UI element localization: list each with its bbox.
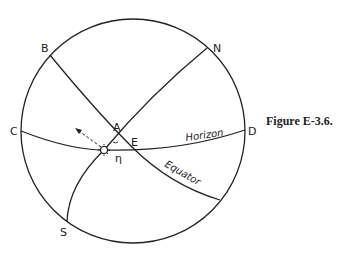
label-b: B (41, 42, 49, 55)
arrow-head-icon (75, 128, 82, 134)
label-equator: Equator (163, 158, 203, 188)
label-c: C (10, 125, 18, 138)
label-d: D (248, 125, 256, 138)
label-s: S (60, 226, 67, 239)
label-e: E (131, 136, 138, 149)
sun-icon (101, 147, 108, 154)
figure-caption: Figure E-3.6. (266, 114, 333, 129)
angle-mark (113, 142, 118, 143)
direction-arrow (79, 131, 101, 147)
label-a: A (113, 121, 121, 134)
label-eta: η (115, 152, 122, 165)
label-n: N (213, 42, 221, 55)
